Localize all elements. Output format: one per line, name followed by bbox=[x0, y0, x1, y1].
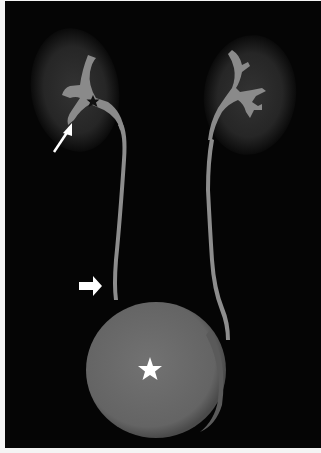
urogram-image bbox=[5, 1, 321, 448]
right-kidney bbox=[23, 22, 127, 300]
left-kidney bbox=[198, 31, 302, 340]
block-arrow-icon bbox=[79, 276, 102, 296]
